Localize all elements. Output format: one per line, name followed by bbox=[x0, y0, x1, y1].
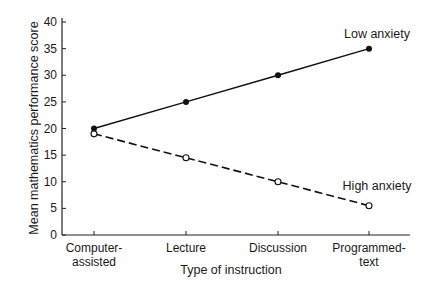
y-tick-label: 15 bbox=[44, 148, 58, 162]
open-circle-marker bbox=[275, 179, 281, 185]
open-circle-marker bbox=[366, 203, 372, 209]
x-category-label: Discussion bbox=[249, 241, 307, 255]
open-circle-marker bbox=[183, 155, 189, 161]
y-tick-label: 20 bbox=[44, 122, 58, 136]
x-category-label: text bbox=[359, 255, 379, 269]
series-high-anxiety: High anxiety bbox=[91, 131, 412, 209]
series-group: Low anxietyHigh anxiety bbox=[91, 27, 412, 209]
x-category-label: Lecture bbox=[166, 241, 206, 255]
series-low-anxiety: Low anxiety bbox=[91, 27, 411, 132]
open-circle-marker bbox=[91, 131, 97, 137]
line-chart: 0510152025303540 Computer-assistedLectur… bbox=[0, 0, 431, 295]
series-line bbox=[94, 134, 369, 206]
series-label: High anxiety bbox=[343, 179, 413, 193]
filled-circle-marker bbox=[183, 99, 189, 105]
x-axis-title: Type of instruction bbox=[180, 263, 281, 277]
y-tick-label: 0 bbox=[50, 228, 57, 242]
x-category-label: Programmed- bbox=[332, 241, 405, 255]
y-tick-label: 40 bbox=[44, 15, 58, 29]
series-label: Low anxiety bbox=[344, 27, 411, 41]
x-category-label: assisted bbox=[72, 255, 116, 269]
y-tick-label: 5 bbox=[50, 201, 57, 215]
y-tick-label: 35 bbox=[44, 42, 58, 56]
filled-circle-marker bbox=[275, 72, 281, 78]
y-axis-title: Mean mathematics performance score bbox=[27, 21, 41, 234]
x-category-label: Computer- bbox=[66, 241, 123, 255]
y-axis: 0510152025303540 bbox=[44, 15, 66, 242]
y-tick-label: 10 bbox=[44, 175, 58, 189]
filled-circle-marker bbox=[366, 46, 372, 52]
y-tick-label: 25 bbox=[44, 95, 58, 109]
y-tick-label: 30 bbox=[44, 68, 58, 82]
series-line bbox=[94, 49, 369, 129]
